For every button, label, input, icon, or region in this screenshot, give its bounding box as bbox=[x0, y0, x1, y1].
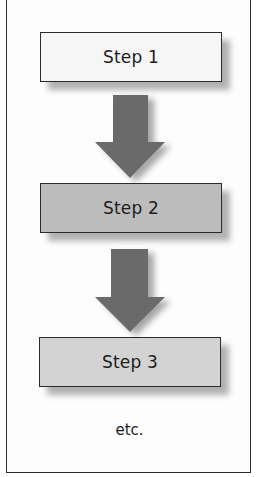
arrow-down-icon bbox=[94, 247, 166, 333]
step-2-label: Step 2 bbox=[103, 198, 159, 218]
step-3-label: Step 3 bbox=[102, 352, 158, 372]
arrow-down-icon bbox=[94, 93, 166, 179]
step-1-label: Step 1 bbox=[103, 47, 159, 67]
step-2-box: Step 2 bbox=[40, 183, 222, 233]
step-3-box: Step 3 bbox=[39, 337, 221, 387]
continuation-label: etc. bbox=[0, 421, 259, 439]
step-1-box: Step 1 bbox=[40, 32, 222, 82]
